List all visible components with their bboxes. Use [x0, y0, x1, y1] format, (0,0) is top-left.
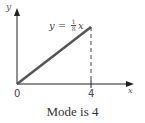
- chart-caption: Mode is 4: [0, 104, 145, 120]
- fraction-denominator: 8: [72, 26, 76, 32]
- tick-label-zero: 0: [14, 88, 20, 99]
- equation-lhs: y: [49, 20, 55, 31]
- density-line: [17, 27, 91, 84]
- equation-fraction: 1 8: [71, 19, 76, 32]
- tick-label-four: 4: [88, 88, 94, 99]
- y-axis-arrow-icon: [14, 8, 20, 16]
- equation-label: y = 1 8 x: [49, 19, 84, 32]
- y-axis-label: y: [6, 2, 11, 12]
- x-axis-label: x: [128, 86, 133, 95]
- equation-equals: =: [58, 20, 66, 31]
- equation-var: x: [78, 20, 84, 31]
